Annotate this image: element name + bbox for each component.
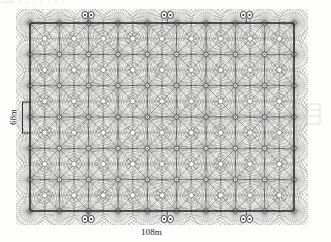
sprinkler-head-icon	[204, 115, 208, 119]
sprinkler-head-icon	[145, 115, 149, 119]
sprinkler-head-icon	[57, 178, 61, 182]
sprinkler-head-icon	[116, 178, 120, 182]
sprinkler-head-icon	[263, 52, 267, 56]
sprinkler-head-icon	[175, 115, 179, 119]
sprinkler-head-icon	[175, 178, 179, 182]
field-drawing-canvas	[0, 0, 331, 242]
sprinkler-head-icon	[233, 84, 237, 88]
sprinkler-head-icon	[87, 178, 91, 182]
sprinkler-head-icon	[263, 84, 267, 88]
sprinkler-head-icon	[57, 84, 61, 88]
sprinkler-head-icon	[204, 178, 208, 182]
sprinkler-head-icon	[116, 146, 120, 150]
sprinkler-head-icon	[233, 52, 237, 56]
valve-pair-icon	[161, 11, 173, 23]
sprinkler-layout-diagram: 108m 68m	[0, 0, 331, 242]
sprinkler-head-icon	[233, 146, 237, 150]
sprinkler-head-icon	[116, 52, 120, 56]
sprinkler-head-icon	[87, 115, 91, 119]
sprinkler-head-icon	[57, 146, 61, 150]
sprinkler-head-icon	[145, 52, 149, 56]
sprinkler-head-icon	[57, 115, 61, 119]
sprinkler-head-icon	[87, 84, 91, 88]
sprinkler-head-icon	[145, 178, 149, 182]
sprinkler-head-icon	[233, 178, 237, 182]
sprinkler-head-icon	[145, 146, 149, 150]
sprinkler-head-icon	[175, 52, 179, 56]
width-dimension-label: 108m	[141, 227, 162, 237]
sprinkler-head-icon	[204, 146, 208, 150]
height-dimension-label: 68m	[8, 99, 18, 135]
sprinkler-head-icon	[175, 146, 179, 150]
sprinkler-head-icon	[263, 115, 267, 119]
scan-smudge	[306, 104, 320, 124]
sprinkler-head-icon	[263, 146, 267, 150]
sprinkler-head-icon	[57, 52, 61, 56]
sprinkler-head-icon	[116, 84, 120, 88]
sprinkler-head-icon	[145, 84, 149, 88]
sprinkler-head-icon	[87, 52, 91, 56]
sprinkler-head-icon	[204, 84, 208, 88]
sprinkler-head-icon	[204, 52, 208, 56]
sprinkler-head-icon	[175, 84, 179, 88]
sprinkler-head-icon	[116, 115, 120, 119]
sprinkler-head-icon	[233, 115, 237, 119]
sprinkler-head-icon	[263, 178, 267, 182]
sprinkler-head-icon	[87, 146, 91, 150]
